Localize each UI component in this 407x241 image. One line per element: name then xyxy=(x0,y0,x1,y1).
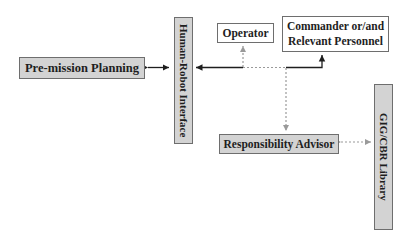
operator-box: Operator xyxy=(217,23,274,43)
operator-label: Operator xyxy=(223,27,269,39)
commander-label-line2: Relevant Personnel xyxy=(288,34,383,49)
gig-cbr-library-label: GIG/CBR Library xyxy=(378,113,390,201)
human-robot-interface-box: Human-Robot Interface xyxy=(174,17,193,144)
responsibility-advisor-label: Responsibility Advisor xyxy=(224,138,335,150)
commander-label-line1: Commander or/and xyxy=(287,19,384,34)
human-robot-interface-label: Human-Robot Interface xyxy=(178,24,190,137)
pre-mission-planning-box: Pre-mission Planning xyxy=(19,57,145,79)
gig-cbr-library-box: GIG/CBR Library xyxy=(374,84,393,230)
commander-box: Commander or/and Relevant Personnel xyxy=(282,16,389,52)
responsibility-advisor-box: Responsibility Advisor xyxy=(219,134,339,154)
pre-mission-planning-label: Pre-mission Planning xyxy=(25,61,139,76)
commander-line xyxy=(286,55,322,68)
